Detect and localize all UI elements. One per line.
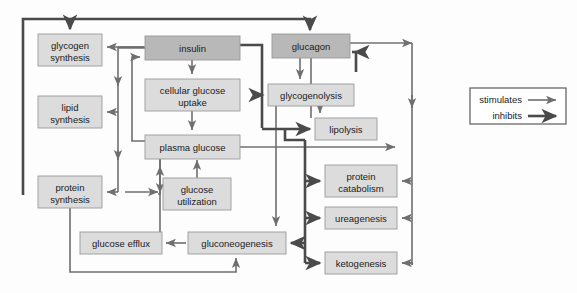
node-label: ureagenesis	[335, 213, 387, 224]
node-label: glucose efflux	[92, 238, 150, 249]
node-lipolysis[interactable]: lipolysis	[315, 118, 377, 140]
edge-insulin-right-out	[240, 45, 262, 78]
legend: stimulates inhibits	[470, 88, 566, 124]
node-label-line2: synthesis	[50, 52, 90, 63]
node-glucose-utilization[interactable]: glucoseutilization	[163, 178, 231, 210]
node-label: lipid	[62, 102, 79, 113]
node-label: glucose	[181, 184, 214, 195]
node-glycogenolysis[interactable]: glycogenolysis	[268, 84, 354, 106]
metabolic-flow-diagram: glycogensynthesislipidsynthesisproteinsy…	[0, 0, 577, 293]
node-label: glycogenolysis	[280, 90, 342, 101]
node-label: protein	[346, 171, 375, 182]
node-glycogen-synthesis[interactable]: glycogensynthesis	[38, 34, 102, 66]
node-ketogenesis[interactable]: ketogenesis	[325, 252, 397, 274]
node-label: insulin	[179, 43, 206, 54]
node-label: glucagon	[292, 41, 331, 52]
node-label-line2: synthesis	[50, 114, 90, 125]
node-plasma-glucose[interactable]: plasma glucose	[145, 135, 240, 159]
diagram-canvas: glycogensynthesislipidsynthesisproteinsy…	[0, 0, 577, 293]
node-label: gluconeogenesis	[201, 238, 273, 249]
node-ureagenesis[interactable]: ureagenesis	[325, 207, 397, 229]
node-label-line2: uptake	[178, 97, 207, 108]
node-lipid-synthesis[interactable]: lipidsynthesis	[38, 96, 102, 128]
node-glucagon[interactable]: glucagon	[272, 34, 350, 58]
node-protein-catabolism[interactable]: proteincatabolism	[325, 165, 397, 197]
nodes-layer: glycogensynthesislipidsynthesisproteinsy…	[38, 34, 397, 274]
node-insulin[interactable]: insulin	[145, 36, 240, 60]
node-protein-synthesis[interactable]: proteinsynthesis	[38, 176, 102, 208]
node-cellular-glucose-uptake[interactable]: cellular glucoseuptake	[145, 79, 240, 111]
edge-plasma-glucose-inhibits-glucagon-loop	[355, 52, 356, 72]
node-label: protein	[55, 182, 84, 193]
node-label: plasma glucose	[159, 142, 225, 153]
node-label: lipolysis	[329, 124, 363, 135]
edge-insulin-catabolic-link	[285, 129, 305, 140]
node-label-line2: synthesis	[50, 194, 90, 205]
legend-label-inhibits: inhibits	[492, 110, 522, 121]
node-label: ketogenesis	[336, 258, 387, 269]
node-gluconeogenesis[interactable]: gluconeogenesis	[188, 232, 286, 254]
node-glucose-efflux[interactable]: glucose efflux	[80, 232, 162, 254]
node-label: cellular glucose	[160, 85, 225, 96]
node-label-line2: catabolism	[338, 183, 383, 194]
node-label-line2: utilization	[177, 196, 217, 207]
legend-label-stimulates: stimulates	[479, 94, 522, 105]
node-label: glycogen	[51, 40, 89, 51]
